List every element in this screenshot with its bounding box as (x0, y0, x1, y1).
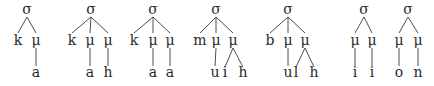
segment-node: a (166, 64, 174, 80)
segment-node: h (103, 64, 112, 80)
mora-node: μ (283, 32, 292, 48)
segment-node: h (309, 64, 318, 80)
mora-node: μ (350, 32, 359, 48)
root-to-child-edge (134, 17, 153, 33)
sigma-node: σ (359, 1, 369, 17)
segment-node: a (32, 64, 40, 80)
mora-node: μ (367, 32, 376, 48)
root-to-child-edge (399, 17, 408, 33)
mora-node: μ (148, 32, 157, 48)
sigma-node: σ (86, 1, 96, 17)
segment-node: h (238, 64, 247, 80)
segment-node: n (413, 64, 422, 80)
root-to-child-edge (288, 17, 305, 33)
root-to-child-edge (72, 17, 91, 33)
mora-node: μ (211, 32, 220, 48)
segment-node: a (86, 64, 94, 80)
segment-node: u (283, 64, 292, 80)
segment-node: l (294, 64, 299, 80)
mora-node: μ (300, 32, 309, 48)
mora-node: μ (103, 32, 112, 48)
root-to-child-edge (408, 17, 418, 33)
onset-node: b (266, 32, 275, 48)
sigma-node: σ (22, 1, 32, 17)
root-to-child-edge (270, 17, 288, 33)
syllable-trees-figure: σkμaσkμaμhσkμaμaσmμuμihσbμuμlhσμiμiσμoμn (0, 0, 434, 86)
mora-node: μ (413, 32, 422, 48)
segment-node: i (353, 64, 358, 80)
mora-node: μ (31, 32, 40, 48)
segment-node: i (370, 64, 375, 80)
sigma-node: σ (148, 1, 158, 17)
onset-node: k (68, 32, 77, 48)
segment-node: o (395, 64, 403, 80)
root-to-child-edge (364, 17, 372, 33)
segment-node: i (223, 64, 228, 80)
mora-node: μ (228, 32, 237, 48)
root-to-child-edge (200, 17, 216, 33)
mora-node: μ (165, 32, 174, 48)
diagram-canvas: σkμaσkμaμhσkμaμaσmμuμihσbμuμlhσμiμiσμoμn (0, 0, 434, 86)
segment-node: u (210, 64, 219, 80)
segment-node: a (149, 64, 157, 80)
root-to-child-edge (27, 17, 36, 33)
root-to-child-edge (18, 17, 27, 33)
root-to-child-edge (355, 17, 364, 33)
root-to-child-edge (216, 17, 233, 33)
sigma-node: σ (211, 1, 221, 17)
root-to-child-edge (153, 17, 170, 33)
sigma-node: σ (403, 1, 413, 17)
onset-node: m (193, 32, 206, 48)
mora-node: μ (394, 32, 403, 48)
root-to-child-edge (91, 17, 108, 33)
mora-node: μ (85, 32, 94, 48)
sigma-node: σ (283, 1, 293, 17)
root-to-child-edge (90, 17, 91, 33)
onset-node: k (130, 32, 139, 48)
onset-node: k (14, 32, 23, 48)
